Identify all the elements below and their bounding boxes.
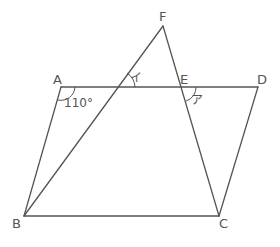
angle-label-110: 110° <box>64 96 93 110</box>
angle-label-i: イ <box>130 71 142 85</box>
point-label-A: A <box>53 72 62 87</box>
point-label-F: F <box>159 9 166 24</box>
segment-BF <box>24 26 163 216</box>
point-label-B: B <box>12 216 21 231</box>
geometry-diagram: A F E D B C 110° イ ア <box>0 0 280 247</box>
point-label-C: C <box>219 216 228 231</box>
segment-DC <box>219 87 258 216</box>
point-label-D: D <box>257 72 267 87</box>
point-label-E: E <box>180 72 188 87</box>
segment-FC <box>163 26 219 216</box>
segment-AB <box>24 87 61 216</box>
angle-label-a: ア <box>191 93 203 107</box>
